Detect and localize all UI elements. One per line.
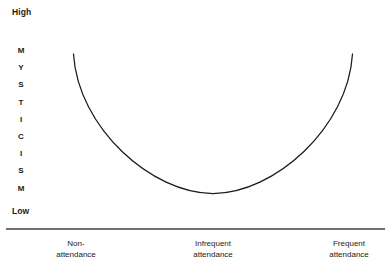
mysticism-attendance-chart: High M Y S T I C I S M Low Non- attendan… (0, 0, 391, 274)
x-tick-line-2: attendance (329, 250, 369, 261)
x-axis-tick-infrequent-attendance: Infrequent attendance (193, 239, 233, 260)
x-axis-tick-frequent-attendance: Frequent attendance (329, 239, 369, 260)
x-tick-line-2: attendance (193, 250, 233, 261)
x-axis-tick-non-attendance: Non- attendance (56, 239, 96, 260)
mysticism-u-curve (74, 54, 353, 194)
x-tick-line-1: Infrequent (195, 239, 231, 248)
x-tick-line-1: Non- (67, 239, 84, 248)
x-tick-line-2: attendance (56, 250, 96, 261)
x-axis-line (6, 228, 385, 230)
x-tick-line-1: Frequent (333, 239, 365, 248)
curve-plot-area (0, 0, 391, 274)
